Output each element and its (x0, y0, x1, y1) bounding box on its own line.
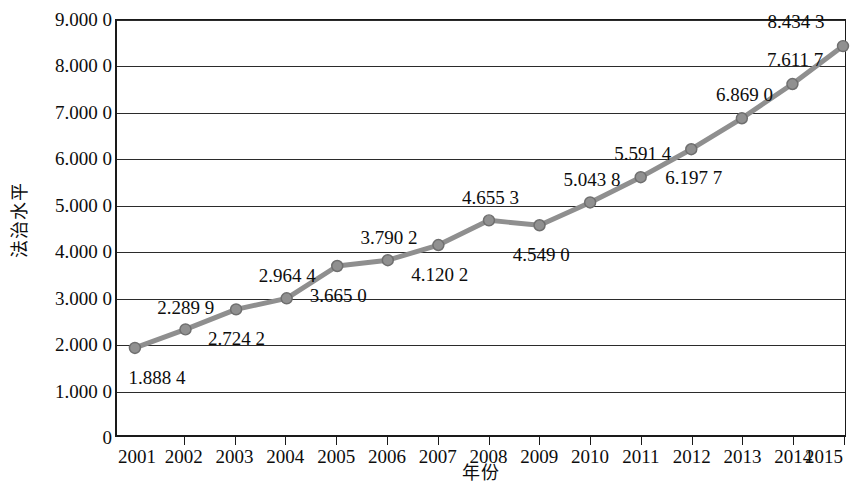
data-point-marker (736, 113, 747, 124)
data-point-label: 5.591 4 (614, 144, 671, 163)
plot-area: 1.888 42.289 92.724 22.964 43.665 03.790… (115, 19, 846, 437)
x-axis-title: 年份 (115, 458, 846, 484)
data-point-marker (635, 172, 646, 183)
x-axis-title-text: 年份 (462, 462, 500, 483)
y-axis-tick-label: 6.000 0 (4, 149, 112, 168)
data-point-label: 4.549 0 (513, 244, 570, 263)
data-point-label: 1.888 4 (129, 368, 186, 387)
data-point-marker (382, 255, 393, 266)
series-layer (117, 20, 845, 435)
data-point-marker (534, 220, 545, 231)
data-point-marker (129, 342, 140, 353)
y-axis-tick-label: 1.000 0 (4, 381, 112, 400)
data-point-marker (433, 240, 444, 251)
x-axis-tick-mark (742, 437, 743, 445)
data-point-marker (332, 261, 343, 272)
x-axis-tick-mark (184, 437, 185, 445)
x-axis-tick-mark (285, 437, 286, 445)
data-point-label: 2.289 9 (157, 297, 214, 316)
x-axis-tick-mark (489, 437, 490, 445)
data-point-label: 3.665 0 (310, 285, 367, 304)
y-axis-tick-label: 8.000 0 (4, 56, 112, 75)
y-axis-tick-label: 0 (4, 428, 112, 447)
data-point-marker (483, 215, 494, 226)
data-point-label: 3.790 2 (360, 227, 417, 246)
y-axis-tick-label: 7.000 0 (4, 102, 112, 121)
data-point-marker (686, 144, 697, 155)
x-axis-tick-mark (590, 437, 591, 445)
data-point-marker (585, 197, 596, 208)
x-axis-tick-mark (387, 437, 388, 445)
x-axis-tick-mark (641, 437, 642, 445)
data-point-label: 2.964 4 (259, 266, 316, 285)
data-point-label: 6.197 7 (665, 168, 722, 187)
x-axis-tick-mark (793, 437, 794, 445)
data-point-marker (787, 79, 798, 90)
data-point-marker (281, 293, 292, 304)
data-point-label: 4.655 3 (462, 187, 519, 206)
data-point-label: 7.611 7 (767, 50, 823, 69)
data-point-marker (180, 324, 191, 335)
data-point-label: 4.120 2 (411, 264, 468, 283)
data-point-label: 5.043 8 (564, 169, 621, 188)
x-axis-tick-mark (539, 437, 540, 445)
y-axis-tick-label: 9.000 0 (4, 10, 112, 29)
x-axis-tick-mark (438, 437, 439, 445)
data-point-marker (838, 41, 849, 52)
x-axis-tick-mark (692, 437, 693, 445)
data-point-label: 8.434 3 (768, 12, 825, 31)
y-axis-tick-label: 5.000 0 (4, 195, 112, 214)
y-axis-tick-label: 3.000 0 (4, 288, 112, 307)
y-axis-tick-label: 2.000 0 (4, 335, 112, 354)
x-axis-tick-mark (336, 437, 337, 445)
data-point-marker (231, 304, 242, 315)
x-axis-tick-mark (844, 437, 845, 445)
y-axis-tick-labels: 9.000 08.000 07.000 06.000 05.000 04.000… (0, 0, 112, 486)
line-chart: 法治水平 9.000 08.000 07.000 06.000 05.000 0… (0, 0, 853, 486)
data-point-label: 2.724 2 (208, 329, 265, 348)
data-point-label: 6.869 0 (716, 84, 773, 103)
y-axis-tick-label: 4.000 0 (4, 242, 112, 261)
x-axis-tick-mark (235, 437, 236, 445)
